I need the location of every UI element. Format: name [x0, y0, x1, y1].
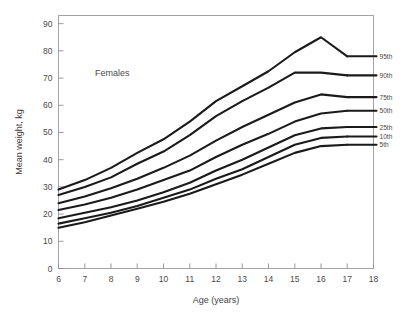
y-tick-label: 20	[43, 209, 53, 219]
series-label-75th: 75th	[380, 94, 393, 101]
y-tick-label: 80	[43, 46, 53, 56]
x-tick-label: 8	[109, 274, 114, 284]
x-tick-label: 6	[56, 274, 61, 284]
x-tick-label: 15	[290, 274, 300, 284]
x-tick-label: 14	[264, 274, 274, 284]
x-tick-label: 11	[185, 274, 194, 284]
series-label-25th: 25th	[380, 124, 393, 131]
y-axis-title: Mean weight, kg	[14, 109, 24, 175]
y-tick-label: 90	[43, 19, 53, 29]
series-label-50th: 50th	[380, 107, 393, 114]
series-label-90th: 90th	[380, 72, 393, 79]
x-tick-label: 7	[82, 274, 87, 284]
figure-background	[0, 0, 407, 315]
x-tick-label: 16	[316, 274, 326, 284]
y-tick-label: 30	[43, 182, 53, 192]
series-label-5th: 5th	[380, 141, 389, 148]
x-tick-label: 12	[211, 274, 221, 284]
y-tick-label: 40	[43, 155, 53, 165]
x-tick-label: 18	[369, 274, 379, 284]
series-label-10th: 10th	[380, 133, 393, 140]
y-tick-label: 60	[43, 100, 53, 110]
x-axis-title: Age (years)	[193, 295, 240, 305]
x-tick-label: 9	[135, 274, 140, 284]
y-tick-label: 10	[43, 236, 53, 246]
y-tick-label: 50	[43, 127, 53, 137]
x-tick-label: 10	[159, 274, 169, 284]
x-tick-label: 17	[343, 274, 353, 284]
x-tick-label: 13	[238, 274, 248, 284]
growth-chart-figure: 0102030405060708090 67891011121314151617…	[0, 0, 407, 315]
chart-canvas: 0102030405060708090 67891011121314151617…	[0, 0, 407, 315]
y-tick-label: 0	[48, 264, 53, 274]
females-annotation: Females	[95, 68, 130, 78]
y-tick-label: 70	[43, 73, 53, 83]
series-label-95th: 95th	[380, 53, 393, 60]
